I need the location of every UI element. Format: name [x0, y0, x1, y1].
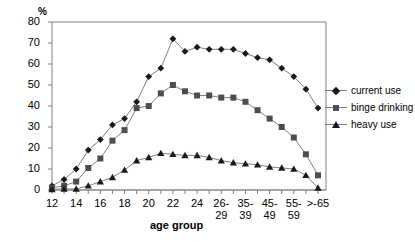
diamond-marker-icon: [325, 85, 347, 97]
legend-label: heavy use: [351, 119, 397, 130]
legend-label: binge drinking: [351, 102, 413, 113]
triangle-marker-icon: [325, 119, 347, 131]
legend-item-current-use[interactable]: current use: [325, 82, 413, 99]
legend-item-binge-drinking[interactable]: binge drinking: [325, 99, 413, 116]
legend-label: current use: [351, 85, 401, 96]
square-marker-icon: [325, 102, 347, 114]
legend-item-heavy-use[interactable]: heavy use: [325, 116, 413, 133]
chart-legend: current usebinge drinkingheavy use: [325, 82, 413, 133]
chart-container: % age group 01020304050607080 1214161820…: [0, 0, 415, 244]
